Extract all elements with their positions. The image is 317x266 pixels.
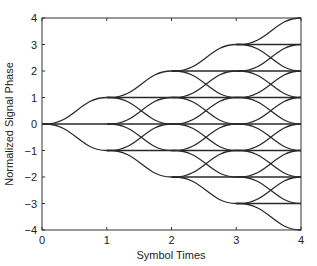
phase-path-segment [107,151,172,178]
y-tick-label: 3 [31,39,37,51]
y-tick-label: −1 [24,145,37,157]
phase-path-segment [172,45,237,72]
y-tick-label: −4 [24,224,37,236]
phase-path-segment [236,124,301,151]
phase-path-segment [236,98,301,125]
y-tick-label: 4 [31,12,37,24]
y-tick-labels: −4−3−2−101234 [24,12,37,236]
phase-path-segment [172,71,237,98]
phase-path-segment [236,177,301,204]
phase-path-segment [107,124,172,151]
phase-path-segment [172,151,237,178]
phase-path-segment [236,204,301,231]
phase-path-segment [236,18,301,45]
phase-path-segment [236,151,301,178]
x-tick-label: 0 [39,234,45,246]
phase-path-segment [172,71,237,98]
phase-path-segment [236,45,301,72]
phase-path-segment [172,124,237,151]
y-axis-label: Normalized Signal Phase [3,62,15,186]
phase-path-segment [107,124,172,151]
x-tick-labels: 01234 [39,234,304,246]
phase-tree-chart: 01234 −4−3−2−101234 Symbol Times Normali… [0,0,317,266]
phase-path-segment [172,98,237,125]
phase-paths [42,18,301,230]
phase-path-segment [107,98,172,125]
phase-path-segment [172,151,237,178]
phase-path-segment [172,124,237,151]
y-tick-label: 2 [31,65,37,77]
y-tick-label: 0 [31,118,37,130]
phase-path-segment [172,177,237,204]
phase-path-segment [42,124,107,151]
x-tick-label: 3 [233,234,239,246]
x-tick-label: 4 [298,234,304,246]
y-tick-label: −2 [24,171,37,183]
phase-path-segment [236,71,301,98]
y-tick-label: −3 [24,198,37,210]
x-axis-label: Symbol Times [136,249,206,261]
x-tick-label: 1 [104,234,110,246]
phase-path-segment [236,124,301,151]
phase-path-segment [42,98,107,125]
y-tick-label: 1 [31,92,37,104]
phase-path-segment [236,71,301,98]
phase-path-segment [236,177,301,204]
phase-path-segment [107,98,172,125]
phase-path-segment [236,45,301,72]
x-tick-label: 2 [168,234,174,246]
phase-path-segment [107,71,172,98]
phase-path-segment [236,98,301,125]
phase-path-segment [172,98,237,125]
phase-path-segment [236,151,301,178]
